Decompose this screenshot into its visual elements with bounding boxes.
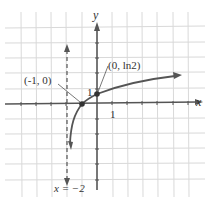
y-axis-arrow-icon bbox=[94, 22, 100, 31]
x-axis-label: x bbox=[195, 95, 202, 109]
y-axis bbox=[94, 22, 100, 190]
y-tick-label: 1 bbox=[87, 86, 93, 98]
grid bbox=[5, 12, 205, 197]
y-axis-label: y bbox=[92, 8, 99, 22]
leader-line-neg1-0 bbox=[58, 84, 80, 102]
curve bbox=[68, 72, 182, 150]
graph-figure: y x 1 1 (-1, 0) (0, ln2) x = −2 bbox=[0, 0, 210, 197]
point-0-ln2 bbox=[94, 91, 100, 97]
point-label-neg1-0: (-1, 0) bbox=[24, 74, 52, 87]
curve-right-arrow-icon bbox=[173, 72, 182, 79]
asymptote-up-arrow-icon bbox=[64, 44, 70, 52]
asymptote-label: x = −2 bbox=[53, 182, 85, 194]
point-label-0-ln2: (0, ln2) bbox=[108, 59, 141, 72]
asymptote-line bbox=[64, 44, 70, 186]
point-neg1-0 bbox=[79, 101, 85, 107]
x-tick-label: 1 bbox=[110, 108, 116, 120]
